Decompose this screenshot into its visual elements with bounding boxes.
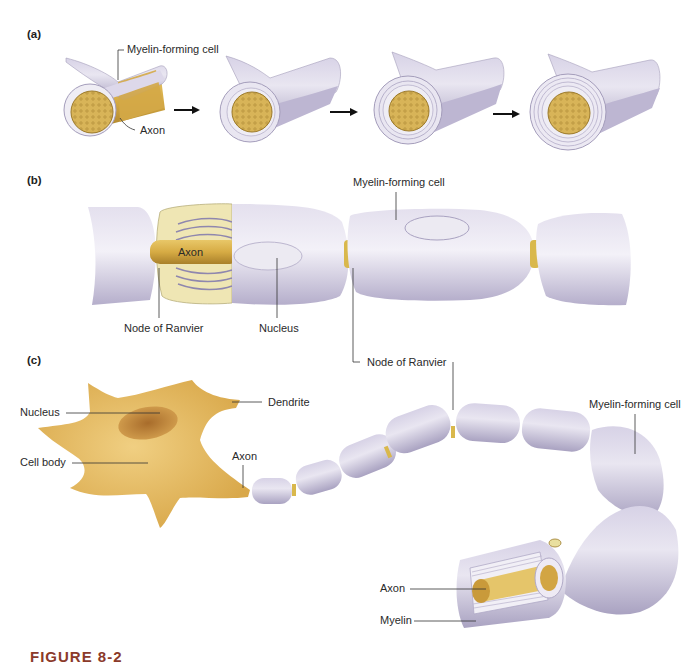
arrow-icon xyxy=(493,110,520,118)
panel-a: (a) Myelin-forming cell Axon xyxy=(27,28,660,150)
myelinated-axon-chain xyxy=(252,400,678,628)
figure-caption: FIGURE 8-2 xyxy=(30,648,123,665)
panel-b-tag: (b) xyxy=(27,174,42,186)
label-axon: Axon xyxy=(178,246,203,258)
label-node-of-ranvier-2: Node of Ranvier xyxy=(367,356,447,368)
label-nucleus: Nucleus xyxy=(259,322,299,334)
label-myelin-forming-cell: Myelin-forming cell xyxy=(127,43,219,55)
cell-body xyxy=(38,380,250,528)
schwann-nucleus xyxy=(234,242,302,270)
panel-a-tag: (a) xyxy=(27,28,41,40)
label-axon-cutaway: Axon xyxy=(380,582,405,594)
panel-c: (c) xyxy=(20,354,681,628)
myelin-segment xyxy=(88,207,156,305)
stage-2-illustration xyxy=(220,56,341,142)
myelin-segment xyxy=(536,213,631,305)
stage-4-illustration xyxy=(530,54,660,150)
panel-b: (b) Axon Node of Ranvier Nucle xyxy=(27,174,631,410)
arrow-icon xyxy=(330,108,358,116)
leader-line xyxy=(118,50,124,80)
arrow-icon xyxy=(174,106,200,114)
label-nucleus: Nucleus xyxy=(20,406,60,418)
label-myelin: Myelin xyxy=(380,614,412,626)
panel-c-tag: (c) xyxy=(27,354,41,366)
label-myelin-forming-cell: Myelin-forming cell xyxy=(589,398,681,410)
label-axon-hillock: Axon xyxy=(232,450,257,462)
stage-3-illustration xyxy=(374,52,504,144)
schwann-nucleus xyxy=(405,216,469,240)
label-dendrite: Dendrite xyxy=(268,396,310,408)
label-myelin-forming-cell: Myelin-forming cell xyxy=(353,176,445,188)
label-axon: Axon xyxy=(140,124,165,136)
label-cell-body: Cell body xyxy=(20,456,66,468)
label-node-of-ranvier: Node of Ranvier xyxy=(124,322,204,334)
